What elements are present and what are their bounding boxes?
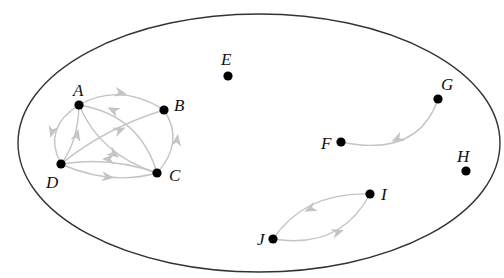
edge-D-B bbox=[61, 110, 164, 164]
label-H: H bbox=[457, 148, 469, 165]
node-J bbox=[268, 234, 277, 243]
nodes bbox=[56, 71, 470, 243]
node-C bbox=[152, 168, 161, 177]
graph-canvas bbox=[0, 0, 504, 278]
edge-D-A bbox=[61, 105, 79, 164]
edge-I-J bbox=[273, 194, 370, 239]
node-A bbox=[74, 100, 83, 109]
edges bbox=[52, 91, 438, 241]
node-I bbox=[365, 189, 374, 198]
node-F bbox=[336, 137, 345, 146]
node-G bbox=[433, 94, 442, 103]
edge-D-C bbox=[61, 164, 157, 178]
label-D: D bbox=[46, 174, 58, 191]
node-E bbox=[223, 71, 232, 80]
label-E: E bbox=[221, 51, 231, 68]
label-J: J bbox=[257, 231, 265, 248]
node-B bbox=[159, 105, 168, 114]
label-I: I bbox=[381, 186, 387, 203]
label-C: C bbox=[169, 167, 180, 184]
label-G: G bbox=[441, 76, 453, 93]
label-F: F bbox=[321, 135, 331, 152]
edge-C-B bbox=[157, 110, 173, 173]
label-B: B bbox=[174, 97, 184, 114]
node-H bbox=[461, 166, 470, 175]
edge-G-F bbox=[341, 99, 438, 145]
label-A: A bbox=[73, 82, 83, 99]
node-D bbox=[56, 159, 65, 168]
